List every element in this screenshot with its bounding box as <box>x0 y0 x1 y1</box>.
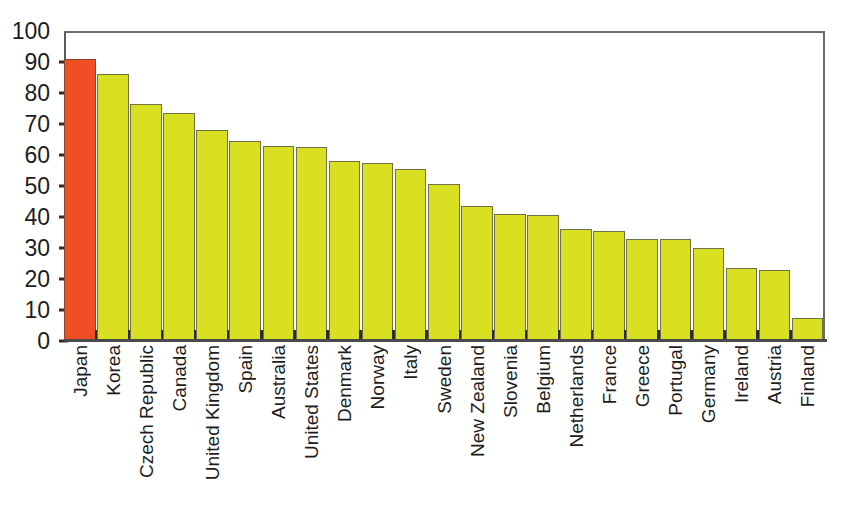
x-axis-labels: JapanKoreaCzech RepublicCanadaUnited Kin… <box>64 345 825 521</box>
x-tick-label-korea: Korea <box>104 345 123 396</box>
bar-canada[interactable] <box>163 113 195 341</box>
x-tick-label-united-states: United States <box>302 345 321 459</box>
bar-united-states[interactable] <box>296 147 328 341</box>
y-tick-label: 20 <box>24 268 50 291</box>
y-tick-label: 0 <box>37 330 50 353</box>
y-tick-label: 80 <box>24 82 50 105</box>
bar-denmark[interactable] <box>329 161 361 341</box>
x-tick-label-slovenia: Slovenia <box>501 345 520 418</box>
y-tick-label: 40 <box>24 206 50 229</box>
x-tick-label-united-kingdom: United Kingdom <box>203 345 222 480</box>
bar-finland[interactable] <box>792 318 824 341</box>
bar-germany[interactable] <box>693 248 725 341</box>
x-tick-label-france: France <box>600 345 619 404</box>
bar-slovenia[interactable] <box>494 214 526 341</box>
bar-czech-republic[interactable] <box>130 104 162 341</box>
x-tick-label-czech-republic: Czech Republic <box>137 345 156 478</box>
x-tick-label-sweden: Sweden <box>435 345 454 414</box>
x-tick-label-finland: Finland <box>798 345 817 407</box>
bar-portugal[interactable] <box>660 239 692 341</box>
bar-netherlands[interactable] <box>560 229 592 341</box>
x-tick-label-portugal: Portugal <box>666 345 685 416</box>
x-tick-label-new-zealand: New Zealand <box>468 345 487 457</box>
bar-norway[interactable] <box>362 163 394 341</box>
y-axis: 0102030405060708090100 <box>0 31 64 341</box>
x-tick-label-japan: Japan <box>71 345 90 397</box>
y-tick-label: 10 <box>24 299 50 322</box>
x-tick-label-italy: Italy <box>401 345 420 380</box>
bar-ireland[interactable] <box>726 268 758 341</box>
bar-italy[interactable] <box>395 169 427 341</box>
x-tick-label-netherlands: Netherlands <box>567 345 586 447</box>
x-tick-label-norway: Norway <box>368 345 387 409</box>
bar-belgium[interactable] <box>527 215 559 341</box>
bar-united-kingdom[interactable] <box>196 130 228 341</box>
x-tick-label-belgium: Belgium <box>534 345 553 414</box>
x-tick-label-denmark: Denmark <box>335 345 354 422</box>
bar-greece[interactable] <box>626 239 658 341</box>
x-tick-label-greece: Greece <box>633 345 652 407</box>
x-tick-label-australia: Australia <box>269 345 288 419</box>
x-tick-label-spain: Spain <box>236 345 255 394</box>
x-tick-label-canada: Canada <box>170 345 189 412</box>
bar-sweden[interactable] <box>428 184 460 341</box>
y-tick-label: 90 <box>24 51 50 74</box>
bar-austria[interactable] <box>759 270 791 341</box>
bar-australia[interactable] <box>263 146 295 341</box>
bar-chart: 0102030405060708090100 JapanKoreaCzech R… <box>0 0 841 521</box>
y-tick-label: 30 <box>24 237 50 260</box>
y-tick-label: 60 <box>24 144 50 167</box>
bar-france[interactable] <box>593 231 625 341</box>
y-tick-label: 100 <box>12 20 50 43</box>
x-tick-label-germany: Germany <box>699 345 718 423</box>
bar-new-zealand[interactable] <box>461 206 493 341</box>
y-tick-label: 70 <box>24 113 50 136</box>
bar-korea[interactable] <box>97 74 129 341</box>
x-tick-label-ireland: Ireland <box>732 345 751 403</box>
y-tick-label: 50 <box>24 175 50 198</box>
x-axis-baseline <box>64 339 827 342</box>
bars-layer <box>64 31 825 341</box>
bar-spain[interactable] <box>229 141 261 341</box>
bar-japan[interactable] <box>64 59 96 341</box>
x-tick-label-austria: Austria <box>765 345 784 404</box>
